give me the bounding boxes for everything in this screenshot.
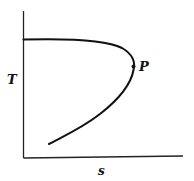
point-p-marker <box>132 65 136 69</box>
t-s-curve <box>24 39 135 144</box>
ts-diagram: P T s <box>0 0 194 181</box>
y-axis-label: T <box>7 72 18 87</box>
x-axis-label: s <box>98 164 105 178</box>
point-p-label: P <box>138 59 150 74</box>
x-axis <box>24 156 184 158</box>
